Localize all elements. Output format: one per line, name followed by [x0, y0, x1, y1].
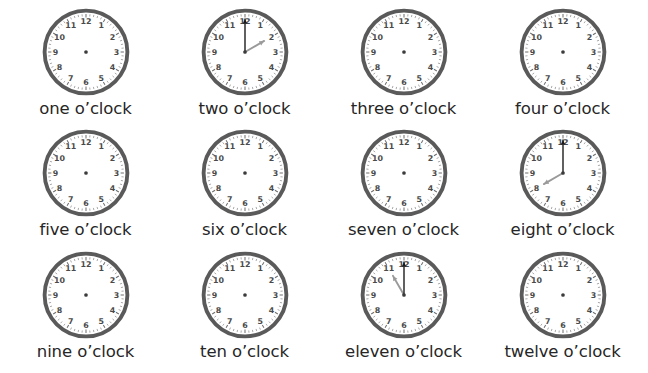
clock-numeral: 5 [98, 317, 104, 326]
clock-center-dot [402, 171, 406, 175]
clock-numeral: 1 [98, 143, 104, 152]
clock-center-dot [243, 293, 247, 297]
clock-numeral: 2 [427, 154, 433, 163]
clock-numeral: 10 [54, 154, 66, 163]
clock-numeral: 5 [257, 317, 263, 326]
clock-numeral: 2 [427, 275, 433, 284]
clock-numeral: 8 [215, 184, 221, 193]
clock-face: 121234567891011 [358, 6, 450, 98]
clock-numeral: 7 [544, 196, 550, 205]
clock-numeral: 5 [98, 196, 104, 205]
clock-item: 121234567891011four o’clock [483, 4, 642, 126]
clock-numeral: 5 [98, 74, 104, 83]
clock-numeral: 3 [272, 291, 278, 300]
clock-center-dot [84, 171, 88, 175]
clock-label: twelve o’clock [504, 343, 620, 360]
clock-numeral: 6 [560, 200, 566, 209]
clock-item: 121234567891011six o’clock [165, 126, 324, 248]
clock-label: three o’clock [351, 100, 456, 117]
clock-numeral: 8 [533, 63, 539, 72]
clock-numeral: 7 [67, 74, 73, 83]
clock-face: 121234567891011 [358, 249, 450, 341]
clock-face: 121234567891011 [40, 6, 132, 98]
clock-numeral: 6 [242, 321, 248, 330]
clock-numeral: 8 [56, 184, 62, 193]
clock-numeral: 7 [385, 196, 391, 205]
clock-numeral: 6 [83, 78, 89, 87]
clock-label: five o’clock [39, 221, 131, 238]
clock-icon: 121234567891011 [358, 249, 450, 341]
clock-numeral: 3 [431, 291, 437, 300]
clock-numeral: 5 [416, 317, 422, 326]
clock-numeral: 9 [52, 48, 58, 57]
clock-numeral: 8 [215, 306, 221, 315]
clock-icon: 121234567891011 [358, 6, 450, 98]
clock-numeral: 4 [427, 184, 433, 193]
clock-label: six o’clock [202, 221, 287, 238]
clock-center-dot [84, 293, 88, 297]
clock-label: eleven o’clock [345, 343, 462, 360]
clock-face: 121234567891011 [517, 6, 609, 98]
clock-numeral: 1 [98, 264, 104, 273]
clock-numeral: 2 [268, 154, 274, 163]
clock-numeral: 7 [226, 74, 232, 83]
clock-numeral: 11 [65, 264, 76, 273]
clock-numeral: 1 [575, 264, 581, 273]
clock-numeral: 4 [586, 63, 592, 72]
clock-numeral: 12 [557, 260, 568, 269]
clock-label: eight o’clock [511, 221, 615, 238]
clock-numeral: 9 [370, 169, 376, 178]
clock-numeral: 10 [531, 275, 543, 284]
clock-face: 121234567891011 [517, 127, 609, 219]
clock-face: 121234567891011 [199, 127, 291, 219]
clock-center-dot [561, 293, 565, 297]
clock-item: 121234567891011five o’clock [6, 126, 165, 248]
clock-numeral: 7 [226, 317, 232, 326]
clock-numeral: 10 [213, 33, 225, 42]
clock-item: 121234567891011one o’clock [6, 4, 165, 126]
clock-numeral: 4 [586, 184, 592, 193]
clock-icon: 121234567891011 [199, 6, 291, 98]
clock-numeral: 1 [257, 21, 263, 30]
clock-numeral: 4 [109, 184, 115, 193]
clock-icon: 121234567891011 [40, 127, 132, 219]
clock-icon: 121234567891011 [199, 127, 291, 219]
clock-icon: 121234567891011 [358, 127, 450, 219]
clock-numeral: 6 [242, 78, 248, 87]
clock-numeral: 2 [109, 275, 115, 284]
clock-numeral: 5 [416, 196, 422, 205]
clock-label: four o’clock [515, 100, 610, 117]
clock-numeral: 3 [590, 291, 596, 300]
clock-numeral: 2 [586, 275, 592, 284]
clock-numeral: 6 [401, 321, 407, 330]
clock-numeral: 6 [560, 78, 566, 87]
clock-icon: 121234567891011 [40, 249, 132, 341]
clock-numeral: 6 [401, 200, 407, 209]
clock-numeral: 11 [224, 21, 235, 30]
clock-numeral: 5 [416, 74, 422, 83]
clock-numeral: 10 [54, 33, 66, 42]
clock-numeral: 9 [370, 48, 376, 57]
clock-numeral: 9 [370, 291, 376, 300]
clock-numeral: 7 [67, 196, 73, 205]
clock-label: ten o’clock [200, 343, 289, 360]
clock-numeral: 3 [272, 169, 278, 178]
clock-numeral: 4 [268, 184, 274, 193]
clock-numeral: 1 [575, 143, 581, 152]
clock-numeral: 1 [416, 21, 422, 30]
clock-icon: 121234567891011 [517, 6, 609, 98]
clock-numeral: 8 [374, 184, 380, 193]
clock-label: nine o’clock [37, 343, 134, 360]
clock-numeral: 1 [257, 143, 263, 152]
clock-center-dot [402, 293, 406, 297]
clock-numeral: 4 [268, 63, 274, 72]
clock-numeral: 3 [431, 48, 437, 57]
clock-numeral: 2 [427, 33, 433, 42]
clock-numeral: 9 [52, 291, 58, 300]
clock-numeral: 8 [56, 306, 62, 315]
clock-numeral: 1 [98, 21, 104, 30]
clock-numeral: 12 [239, 260, 250, 269]
clock-numeral: 9 [211, 169, 217, 178]
clock-numeral: 9 [211, 291, 217, 300]
clock-numeral: 3 [113, 291, 119, 300]
